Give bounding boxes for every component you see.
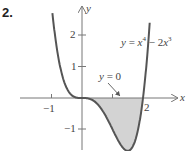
y-tick-label-neg1: −1	[64, 123, 76, 134]
problem-number: 2.	[2, 5, 13, 20]
annotation-arrow	[108, 83, 120, 96]
y-tick-label-2: 2	[70, 29, 76, 40]
x-tick-label-2: 2	[144, 102, 150, 113]
y-tick-label-1: 1	[71, 61, 77, 72]
y-axis-label: y	[86, 3, 91, 14]
x-axis-label: x	[180, 92, 185, 103]
x-tick-label-neg1: −1	[43, 103, 55, 114]
equation-leader-line	[143, 48, 145, 58]
equation-label: y = x4 − 2x3	[121, 36, 172, 48]
graph	[0, 0, 186, 151]
y-equals-zero-label: y = 0	[99, 71, 121, 82]
